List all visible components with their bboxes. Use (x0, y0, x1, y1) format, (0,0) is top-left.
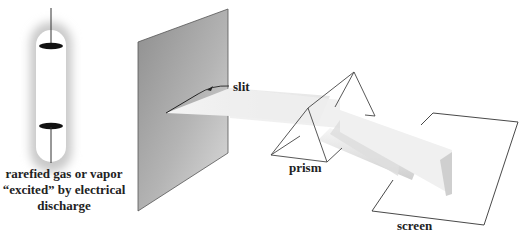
slit-label: slit (233, 79, 250, 94)
spectroscope-diagram: slit prism screen rarefied gas or vapor … (0, 0, 531, 239)
incident-beam-far (230, 88, 340, 128)
prism-back-base-edge (365, 115, 375, 116)
dispersed-beams (318, 110, 452, 196)
source-caption-line-3: discharge (0, 198, 128, 214)
source-caption: rarefied gas or vapor “excited” by elect… (0, 166, 128, 214)
source-caption-line-2: “excited” by electrical (0, 182, 128, 198)
top-electrode-icon (39, 43, 63, 49)
prism-back-left-edge (335, 72, 354, 107)
screen-label: screen (397, 218, 432, 233)
gas-discharge-tube (30, 8, 72, 172)
prism-label: prism (289, 160, 322, 175)
prism-hidden-edge (271, 136, 300, 155)
source-caption-line-1: rarefied gas or vapor (0, 166, 128, 182)
prism-back-right-edge (354, 72, 375, 116)
prism-base-right-edge (327, 148, 342, 162)
